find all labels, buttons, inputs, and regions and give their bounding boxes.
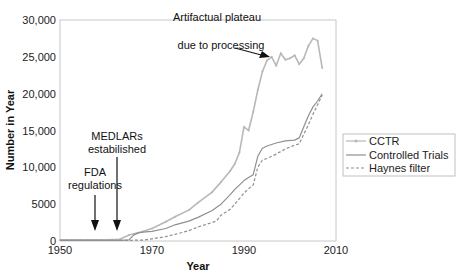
annotation-fda-line2: regulations [68,179,122,191]
annotation-plateau: Artifactual plateau due to processing [173,11,270,58]
data-point-cctr [271,56,273,58]
annotation-fda-arrowhead [91,220,99,231]
x-tick-label: 1950 [48,244,72,256]
annotation-medlars-arrowhead [113,220,121,231]
legend-label-cctr: CCTR [369,135,400,147]
data-point-cctr [229,170,231,172]
annotation-medlars-line2: estabilished [88,143,146,155]
x-axis-title: Year [186,260,210,272]
y-tick-label: 30,000 [22,14,56,26]
legend-label-controlled-trials: Controlled Trials [369,149,449,161]
y-tick-label: 25,000 [22,51,56,63]
legend: CCTR Controlled Trials Haynes filter [343,134,455,176]
x-tick-label: 2010 [324,244,348,256]
x-tick-label: 1970 [140,244,164,256]
data-point-cctr [321,67,323,69]
data-point-cctr [174,216,176,218]
data-point-cctr [211,191,213,193]
data-point-cctr [275,65,277,67]
annotation-plateau-line1: Artifactual plateau [173,11,261,23]
data-point-cctr [252,111,254,113]
data-point-cctr [151,227,153,229]
data-point-cctr [303,57,305,59]
annotation-fda-line1: FDA [84,166,107,178]
y-tick-label: 10,000 [22,161,56,173]
annotation-plateau-line2: due to processing [178,39,265,51]
data-point-cctr [220,181,222,183]
data-point-cctr [238,152,240,154]
data-point-cctr [248,130,250,132]
data-point-cctr [257,89,259,91]
line-chart: 0500010,00015,00020,00025,00030,000 1950… [0,0,456,275]
annotation-plateau-arrowhead [259,51,270,58]
data-point-cctr [289,57,291,59]
y-tick-label: 20,000 [22,88,56,100]
data-point-cctr [298,63,300,65]
data-point-cctr [317,40,319,42]
data-point-cctr [261,71,263,73]
data-point-cctr [266,60,268,62]
annotation-medlars-line1: MEDLARs [91,130,143,142]
data-point-cctr [188,209,190,211]
legend-label-haynes-filter: Haynes filter [369,162,430,174]
data-point-cctr [312,37,314,39]
x-tick-label: 1990 [232,244,256,256]
y-tick-label: 5000 [32,198,56,210]
legend-marker-cctr [355,140,358,143]
y-axis-title: Number in Year [4,89,16,170]
data-point-cctr [294,54,296,56]
data-point-cctr [280,52,282,54]
data-point-cctr [243,126,245,128]
y-tick-label: 15,000 [22,125,56,137]
data-point-cctr [197,202,199,204]
data-point-cctr [307,45,309,47]
data-point-cctr [128,234,130,236]
data-point-cctr [165,221,167,223]
data-point-cctr [234,163,236,165]
data-point-cctr [284,59,286,61]
